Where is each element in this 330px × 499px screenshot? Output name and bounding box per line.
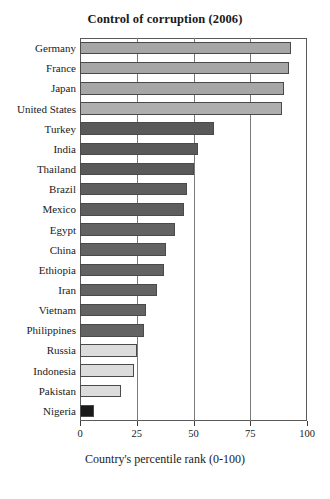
category-label-iran: Iran <box>0 284 76 296</box>
x-tick-50 <box>194 421 195 426</box>
bar-row <box>80 203 307 216</box>
category-axis-labels: GermanyFranceJapanUnited StatesTurkeyInd… <box>0 38 76 421</box>
bar-philippines <box>80 324 144 337</box>
category-label-india: India <box>0 143 76 155</box>
bar-turkey <box>80 122 214 135</box>
bar-united-states <box>80 102 282 115</box>
bar-row <box>80 42 307 55</box>
x-axis-tick-labels: 0255075100 <box>80 428 307 444</box>
category-label-indonesia: Indonesia <box>0 365 76 377</box>
category-label-nigeria: Nigeria <box>0 405 76 417</box>
bar-nigeria <box>80 405 94 418</box>
x-tick-25 <box>137 421 138 426</box>
bar-germany <box>80 42 291 55</box>
bar-indonesia <box>80 364 134 377</box>
category-label-philippines: Philippines <box>0 324 76 336</box>
bar-row <box>80 143 307 156</box>
category-label-pakistan: Pakistan <box>0 385 76 397</box>
bar-row <box>80 102 307 115</box>
bar-japan <box>80 82 284 95</box>
bar-row <box>80 82 307 95</box>
category-label-turkey: Turkey <box>0 123 76 135</box>
x-tick-label-50: 50 <box>188 428 199 439</box>
category-label-russia: Russia <box>0 344 76 356</box>
category-label-egypt: Egypt <box>0 224 76 236</box>
category-label-ethiopia: Ethiopia <box>0 264 76 276</box>
category-label-thailand: Thailand <box>0 163 76 175</box>
bar-vietnam <box>80 304 146 317</box>
bar-ethiopia <box>80 264 164 277</box>
bar-row <box>80 324 307 337</box>
category-label-germany: Germany <box>0 42 76 54</box>
x-tick-label-100: 100 <box>299 428 315 439</box>
bar-row <box>80 122 307 135</box>
bar-row <box>80 344 307 357</box>
category-label-united-states: United States <box>0 103 76 115</box>
bar-thailand <box>80 163 194 176</box>
category-label-france: France <box>0 62 76 74</box>
bar-row <box>80 364 307 377</box>
x-tick-75 <box>250 421 251 426</box>
x-axis-ticks <box>80 421 307 427</box>
x-tick-label-0: 0 <box>77 428 82 439</box>
x-tick-label-75: 75 <box>245 428 256 439</box>
x-tick-100 <box>307 421 308 426</box>
x-tick-label-25: 25 <box>132 428 143 439</box>
bar-france <box>80 62 289 75</box>
bar-row <box>80 62 307 75</box>
bar-mexico <box>80 203 184 216</box>
bar-row <box>80 163 307 176</box>
bar-row <box>80 304 307 317</box>
bar-row <box>80 405 307 418</box>
category-label-brazil: Brazil <box>0 183 76 195</box>
category-label-japan: Japan <box>0 82 76 94</box>
bar-china <box>80 243 166 256</box>
chart-title: Control of corruption (2006) <box>0 12 330 27</box>
x-tick-0 <box>80 421 81 426</box>
bar-row <box>80 223 307 236</box>
bar-series <box>80 38 307 421</box>
bar-row <box>80 183 307 196</box>
chart-figure: Control of corruption (2006) GermanyFran… <box>0 0 330 499</box>
category-label-mexico: Mexico <box>0 203 76 215</box>
bar-brazil <box>80 183 187 196</box>
bar-india <box>80 143 198 156</box>
bar-row <box>80 243 307 256</box>
bar-row <box>80 264 307 277</box>
bar-pakistan <box>80 385 121 398</box>
x-axis-title: Country's percentile rank (0-100) <box>0 452 330 467</box>
category-label-vietnam: Vietnam <box>0 304 76 316</box>
bar-row <box>80 385 307 398</box>
bar-row <box>80 284 307 297</box>
category-label-china: China <box>0 244 76 256</box>
bar-russia <box>80 344 137 357</box>
bar-egypt <box>80 223 175 236</box>
bar-iran <box>80 284 157 297</box>
